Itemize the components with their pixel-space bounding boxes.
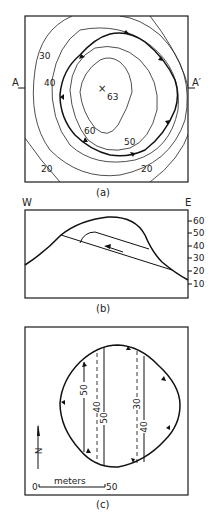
contour-label: 50 <box>124 137 136 147</box>
panel-a-map: A A′ 30 40 60 50 20 <box>12 16 202 182</box>
scale-bar: 0 meters 50 <box>32 476 118 492</box>
contour-60 <box>80 58 132 133</box>
panel-b-cross-section: W E 60 50 40 30 20 10 <box>22 197 205 298</box>
peak-marker: × <box>98 83 106 94</box>
contour-label: 60 <box>84 126 96 136</box>
panel-c-frame <box>25 327 188 495</box>
axis-tick-label: 60 <box>193 216 205 226</box>
section-label-a-prime: A′ <box>192 77 202 88</box>
axis-tick-label: 10 <box>193 279 205 289</box>
panel-c-map: 50 40 50 30 40 N 0 meters 50 <box>25 327 188 495</box>
contour-label: 30 <box>39 51 51 61</box>
north-arrow-icon: N <box>34 424 44 469</box>
contour-label: 20 <box>141 164 153 174</box>
peak-elevation: 63 <box>107 92 118 102</box>
contour-label: 50 <box>79 384 89 396</box>
axis-tick-label: 40 <box>193 241 205 251</box>
thrust-fault-outline <box>60 33 178 156</box>
thrust-tooth <box>166 425 170 430</box>
thrust-tooth <box>123 30 129 34</box>
axis-tick-label: 50 <box>193 228 205 238</box>
axis-tick-label: 20 <box>193 266 205 276</box>
panel-b-frame <box>25 210 188 298</box>
north-label: N <box>34 448 44 455</box>
contour-label: 50 <box>99 412 109 424</box>
east-label: E <box>185 197 191 208</box>
panel-b-caption: (b) <box>96 303 110 314</box>
contour-label: 30 <box>132 398 142 410</box>
thrust-tooth <box>61 400 65 405</box>
thrust-tooth <box>161 376 166 381</box>
thrust-slice-line <box>80 232 149 249</box>
contour-20-right <box>150 16 192 182</box>
thrust-sheet-outline <box>60 345 180 467</box>
contour-label: 40 <box>44 78 56 88</box>
contour-20-left <box>25 138 60 182</box>
basal-fault-line <box>61 235 172 270</box>
movement-arrow-head <box>104 244 111 249</box>
scale-unit: meters <box>54 476 86 486</box>
west-label: W <box>22 197 32 208</box>
panel-c-caption: (c) <box>96 499 109 510</box>
contour-label: 40 <box>139 421 149 433</box>
section-label-a: A <box>12 77 19 88</box>
contour-label: 40 <box>92 401 102 413</box>
elevation-axis: 60 50 40 30 20 10 <box>188 216 205 289</box>
thrust-tooth <box>86 448 91 453</box>
axis-tick-label: 30 <box>193 253 205 263</box>
contour-label: 20 <box>41 164 53 174</box>
panel-a-caption: (a) <box>96 187 110 198</box>
scale-end: 50 <box>106 482 118 492</box>
scale-start: 0 <box>32 482 38 492</box>
topographic-profile <box>25 217 188 280</box>
diagram-canvas: A A′ 30 40 60 50 20 <box>0 0 213 520</box>
